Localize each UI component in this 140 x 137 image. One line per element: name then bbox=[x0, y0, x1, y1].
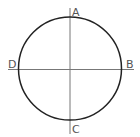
circle-diagram: A B C D bbox=[0, 0, 140, 137]
label-b: B bbox=[126, 58, 134, 71]
label-d: D bbox=[8, 58, 16, 71]
label-c: C bbox=[72, 123, 80, 136]
label-a: A bbox=[72, 6, 80, 19]
